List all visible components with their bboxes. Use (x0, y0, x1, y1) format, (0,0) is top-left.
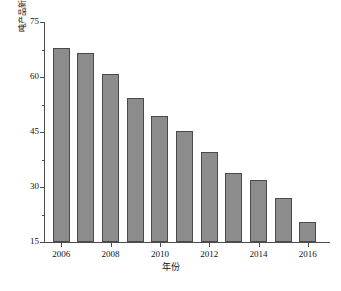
bar-2011 (176, 131, 193, 242)
bar-2015 (275, 198, 292, 242)
y-tick-mark (40, 187, 44, 188)
x-tick-mark (209, 243, 210, 247)
y-axis-title-text: 吨产品新鲜水耗量/m (18, 0, 27, 32)
y-tick-label: 60 (30, 72, 39, 81)
x-tick-label: 2006 (41, 249, 81, 259)
y-minor-tick-mark (42, 215, 44, 216)
y-minor-tick-mark (42, 160, 44, 161)
y-tick-label: 75 (30, 17, 39, 26)
y-tick-mark (40, 242, 44, 243)
bar-chart-figure: 吨产品新鲜水耗量/m3 1530456075 20062008201020122… (0, 0, 341, 291)
bar-2009 (127, 98, 144, 242)
bar-2010 (151, 116, 168, 242)
x-axis-title: 年份 (0, 262, 341, 273)
bar-2013 (225, 173, 242, 242)
y-minor-tick-mark (42, 105, 44, 106)
y-tick-mark (40, 77, 44, 78)
y-tick-label: 15 (30, 237, 39, 246)
plot-area: 1530456075 200620082010201220142016 (44, 22, 330, 243)
bar-2012 (201, 152, 218, 242)
y-axis-line (44, 22, 45, 243)
y-minor-tick-mark (42, 50, 44, 51)
x-axis-line (44, 242, 330, 243)
x-tick-label: 2010 (140, 249, 180, 259)
x-tick-label: 2012 (189, 249, 229, 259)
x-tick-label: 2008 (91, 249, 131, 259)
x-tick-label: 2014 (239, 249, 279, 259)
bar-2008 (102, 74, 119, 242)
y-tick-mark (40, 132, 44, 133)
x-tick-mark (259, 243, 260, 247)
bar-2016 (299, 222, 316, 242)
x-tick-mark (308, 243, 309, 247)
y-axis-title: 吨产品新鲜水耗量/m3 (13, 0, 25, 64)
x-tick-mark (160, 243, 161, 247)
y-tick-label: 45 (30, 127, 39, 136)
y-tick-label: 30 (30, 182, 39, 191)
bar-2007 (77, 53, 94, 242)
x-tick-mark (111, 243, 112, 247)
bar-2014 (250, 180, 267, 242)
bar-2006 (53, 48, 70, 242)
y-tick-mark (40, 22, 44, 23)
x-tick-mark (61, 243, 62, 247)
x-tick-label: 2016 (288, 249, 328, 259)
